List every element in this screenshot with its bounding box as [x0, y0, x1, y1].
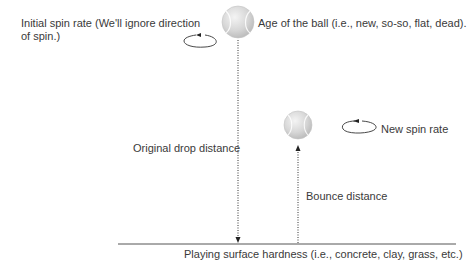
surface-hardness-label: Playing surface hardness (i.e., concrete… — [184, 248, 463, 261]
counterclockwise-spin-arrow-icon — [184, 33, 216, 47]
initial-spin-label-line2: of spin.) — [21, 30, 60, 43]
tennis-ball-icon — [222, 6, 254, 38]
original-drop-distance-label: Original drop distance — [133, 142, 240, 155]
tennis-ball-icon — [284, 111, 312, 139]
arrow-up-icon — [296, 145, 301, 151]
new-spin-rate-label: New spin rate — [381, 123, 448, 136]
arrow-down-icon — [236, 237, 241, 243]
initial-spin-label-line1: Initial spin rate (We'll ignore directio… — [21, 17, 200, 30]
bounce-distance-label: Bounce distance — [306, 190, 387, 203]
ball-age-label: Age of the ball (i.e., new, so-so, flat,… — [258, 17, 467, 30]
counterclockwise-spin-arrow-icon — [342, 119, 376, 133]
